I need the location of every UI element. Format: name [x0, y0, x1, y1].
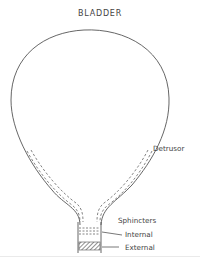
detrusor-layer-right-outer	[100, 151, 152, 222]
divider-line	[0, 256, 200, 257]
leader-internal	[102, 232, 122, 235]
bladder-wall	[11, 30, 169, 225]
label-external: External	[125, 243, 155, 252]
label-detrusor: Detrusor	[153, 144, 184, 153]
external-sphincter	[79, 242, 100, 250]
label-sphincters: Sphincters	[118, 216, 156, 225]
detrusor-layer-left-outer	[27, 151, 80, 222]
detrusor-layer-right-inner	[97, 150, 148, 222]
internal-sphincter	[79, 228, 100, 234]
bladder-diagram	[0, 0, 200, 270]
label-internal: Internal	[125, 230, 153, 239]
